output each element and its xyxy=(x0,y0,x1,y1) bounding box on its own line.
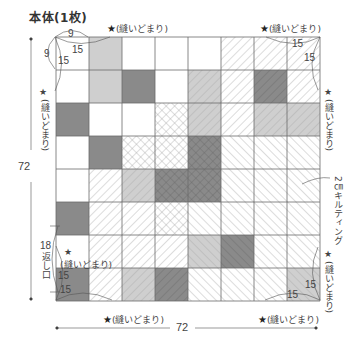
quilt-block xyxy=(221,103,254,136)
tl-dim-v: 9 xyxy=(44,48,50,59)
stitch-stop-bottom-right: ★(縫いどまり) xyxy=(258,313,319,326)
quilt-block xyxy=(254,136,287,169)
quilt-block xyxy=(254,37,287,70)
quilting-label: 2㎝キルティング xyxy=(333,176,343,245)
quilt-block xyxy=(122,103,155,136)
bl-dim-v: 15 xyxy=(58,270,69,281)
quilt-block xyxy=(221,169,254,202)
quilt-block xyxy=(188,235,221,268)
quilt-block xyxy=(155,103,188,136)
quilt-block xyxy=(221,136,254,169)
quilt-block xyxy=(254,235,287,268)
quilt-block xyxy=(155,268,188,301)
quilt-block xyxy=(188,202,221,235)
quilt-block xyxy=(221,235,254,268)
quilt-block xyxy=(56,136,89,169)
quilt-block xyxy=(254,169,287,202)
quilt-block xyxy=(89,103,122,136)
stitch-stop-top-left: ★(縫いどまり) xyxy=(107,22,168,35)
quilt-block xyxy=(155,136,188,169)
quilt-block xyxy=(221,37,254,70)
quilt-block xyxy=(122,37,155,70)
quilt-block xyxy=(188,268,221,301)
quilt-block xyxy=(155,169,188,202)
quilt-block xyxy=(122,202,155,235)
quilt-block xyxy=(56,70,89,103)
quilt-block xyxy=(155,202,188,235)
stitch-stop-right-top: (縫いどまり) xyxy=(324,99,334,151)
tl-diag-h: 15 xyxy=(72,44,83,55)
quilt-block xyxy=(254,70,287,103)
quilt-block xyxy=(287,235,320,268)
stitch-stop-right-bottom: (縫いどまり) xyxy=(324,261,334,313)
star-icon: ★ xyxy=(324,87,332,97)
quilt-block xyxy=(188,169,221,202)
quilt-block xyxy=(254,103,287,136)
quilt-block xyxy=(56,202,89,235)
opening-label: 返し口 xyxy=(41,252,51,279)
quilt-block xyxy=(221,268,254,301)
stitch-stop-left-bottom: (縫いどまり) xyxy=(60,258,112,271)
tl-diag-v: 15 xyxy=(58,55,69,66)
star-icon: ★ xyxy=(64,247,72,257)
tr-dim-v: 15 xyxy=(304,52,315,63)
quilt-block xyxy=(287,136,320,169)
quilt-block xyxy=(56,169,89,202)
quilt-block xyxy=(221,202,254,235)
quilt-block xyxy=(254,202,287,235)
quilt-block xyxy=(122,136,155,169)
quilt-block xyxy=(188,103,221,136)
quilt-block xyxy=(287,103,320,136)
quilt-block xyxy=(122,169,155,202)
quilt-block xyxy=(188,136,221,169)
br-dim-h: 15 xyxy=(287,289,298,300)
quilt-block xyxy=(155,235,188,268)
quilt-block xyxy=(188,37,221,70)
quilt-block xyxy=(89,169,122,202)
quilt-block xyxy=(56,103,89,136)
star-icon: ★ xyxy=(107,23,116,34)
quilt-block xyxy=(287,202,320,235)
bl-dim-h: 15 xyxy=(60,284,71,295)
br-dim-v: 15 xyxy=(305,279,316,290)
stitch-stop-top-right: ★(縫いどまり) xyxy=(260,22,321,35)
tr-dim-h: 15 xyxy=(292,38,303,49)
star-icon: ★ xyxy=(103,314,112,325)
star-icon: ★ xyxy=(260,23,269,34)
tl-dim-h: 9 xyxy=(68,28,74,39)
quilt-block xyxy=(287,169,320,202)
quilt-block xyxy=(254,268,287,301)
quilt-block xyxy=(89,202,122,235)
stitch-stop-bottom-left: ★(縫いどまり) xyxy=(103,313,164,326)
quilt-block xyxy=(89,268,122,301)
stitch-stop-left-top: (縫いどまり) xyxy=(40,99,50,151)
quilt-block xyxy=(287,70,320,103)
quilt-block xyxy=(122,235,155,268)
quilt-block xyxy=(122,70,155,103)
star-icon: ★ xyxy=(39,87,47,97)
star-icon: ★ xyxy=(258,314,267,325)
quilt-block xyxy=(155,70,188,103)
quilt-block xyxy=(188,70,221,103)
quilt-block xyxy=(155,37,188,70)
star-icon: ★ xyxy=(324,249,332,259)
height-dimension: 72 xyxy=(18,160,30,172)
quilt-block xyxy=(89,70,122,103)
opening-size: 18 xyxy=(40,240,51,251)
quilt-block xyxy=(89,136,122,169)
quilt-block xyxy=(122,268,155,301)
quilt-block xyxy=(221,70,254,103)
width-dimension: 72 xyxy=(176,321,188,333)
